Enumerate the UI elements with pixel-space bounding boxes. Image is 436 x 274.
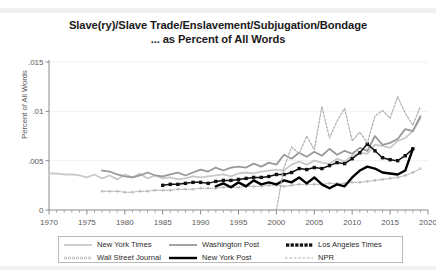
x-tick-label: 2015: [381, 218, 399, 227]
legend-key-line-thick-black: [168, 253, 198, 263]
series-marker: [214, 180, 217, 183]
legend-label: Wall Street Journal: [97, 253, 161, 262]
legend-marker: [72, 256, 74, 258]
series-marker: [229, 179, 232, 182]
series-marker: [169, 183, 172, 186]
series-marker: [404, 154, 407, 157]
legend-key-dots-small-gray: [63, 253, 93, 263]
series-marker: [222, 179, 225, 182]
plot-area-wrapper: 0.005.01.0151970197519801985199019952000…: [0, 0, 436, 274]
series-marker: [313, 183, 315, 185]
legend-item[interactable]: NPR: [284, 251, 408, 264]
legend-label: New York Post: [202, 253, 251, 262]
y-tick-label: 0: [39, 206, 44, 215]
legend-key-squares-black: [284, 240, 314, 250]
legend-marker: [291, 243, 294, 246]
x-tick-label: 1990: [192, 218, 210, 227]
y-tick-label: .01: [32, 107, 44, 116]
legend-label: Washington Post: [202, 240, 259, 249]
series-marker: [191, 181, 194, 184]
series-marker: [237, 178, 240, 181]
series-marker: [328, 164, 331, 167]
series-marker: [177, 188, 179, 190]
x-tick-label: 1980: [116, 218, 134, 227]
x-tick-label: 1995: [230, 218, 248, 227]
series-marker: [419, 168, 421, 170]
legend-label: Los Angeles Times: [318, 240, 382, 249]
series-marker: [268, 184, 270, 186]
x-tick-label: 2000: [268, 218, 286, 227]
legend-item[interactable]: New York Post: [168, 251, 284, 264]
y-tick-label: .005: [28, 157, 44, 166]
legend-key-line-light-gray: [63, 240, 93, 250]
legend-key-dashes-gray: [284, 253, 314, 263]
legend-item[interactable]: New York Times: [63, 238, 168, 251]
series-marker: [275, 173, 278, 176]
legend-label: New York Times: [97, 240, 151, 249]
legend-marker: [84, 256, 86, 258]
series-marker: [222, 186, 224, 188]
series-marker: [199, 181, 202, 184]
legend-marker: [64, 256, 66, 258]
legend-marker: [80, 256, 82, 258]
legend-marker: [309, 243, 312, 246]
legend-grid: New York TimesWashington PostLos Angeles…: [59, 237, 402, 262]
legend-marker: [88, 256, 90, 258]
chart-figure: Slave(ry)/Slave Trade/Enslavement/Subjug…: [0, 0, 436, 274]
legend-key-line-medium-gray: [168, 240, 198, 250]
series-marker: [252, 176, 255, 179]
x-tick-label: 1985: [154, 218, 172, 227]
series-marker: [359, 181, 361, 183]
series-line: [269, 97, 421, 210]
plot-svg: 0.005.01.0151970197519801985199019952000…: [0, 0, 436, 274]
legend-marker: [286, 243, 289, 246]
series-marker: [381, 156, 384, 159]
legend-marker: [68, 256, 70, 258]
series-marker: [244, 177, 247, 180]
series-marker: [396, 159, 399, 162]
x-tick-label: 1975: [78, 218, 96, 227]
x-tick-label: 2010: [343, 218, 361, 227]
series-marker: [290, 171, 293, 174]
legend-item[interactable]: Los Angeles Times: [284, 238, 408, 251]
series-marker: [176, 183, 179, 186]
series-marker: [305, 168, 308, 171]
legend-marker: [300, 243, 303, 246]
series-marker: [313, 166, 316, 169]
series-marker: [320, 167, 323, 170]
x-tick-label: 2005: [305, 218, 323, 227]
series-marker: [358, 151, 361, 154]
series-marker: [335, 161, 338, 164]
series-marker: [297, 167, 300, 170]
legend-item[interactable]: Wall Street Journal: [63, 251, 168, 264]
legend-marker: [295, 243, 298, 246]
legend-item[interactable]: Washington Post: [168, 238, 284, 251]
series-marker: [267, 175, 270, 178]
series-marker: [161, 184, 164, 187]
legend-marker: [76, 256, 78, 258]
y-tick-label: .015: [28, 58, 44, 67]
chart-legend: New York TimesWashington PostLos Angeles…: [58, 236, 403, 263]
series-marker: [351, 157, 354, 160]
series-marker: [184, 182, 187, 185]
x-tick-label: 2020: [419, 218, 436, 227]
series-marker: [343, 162, 346, 165]
series-marker: [260, 176, 263, 179]
legend-marker: [304, 243, 307, 246]
legend-label: NPR: [318, 253, 334, 262]
series-marker: [388, 158, 391, 161]
x-tick-label: 1970: [40, 218, 58, 227]
series-marker: [206, 182, 209, 185]
series-marker: [373, 149, 376, 152]
